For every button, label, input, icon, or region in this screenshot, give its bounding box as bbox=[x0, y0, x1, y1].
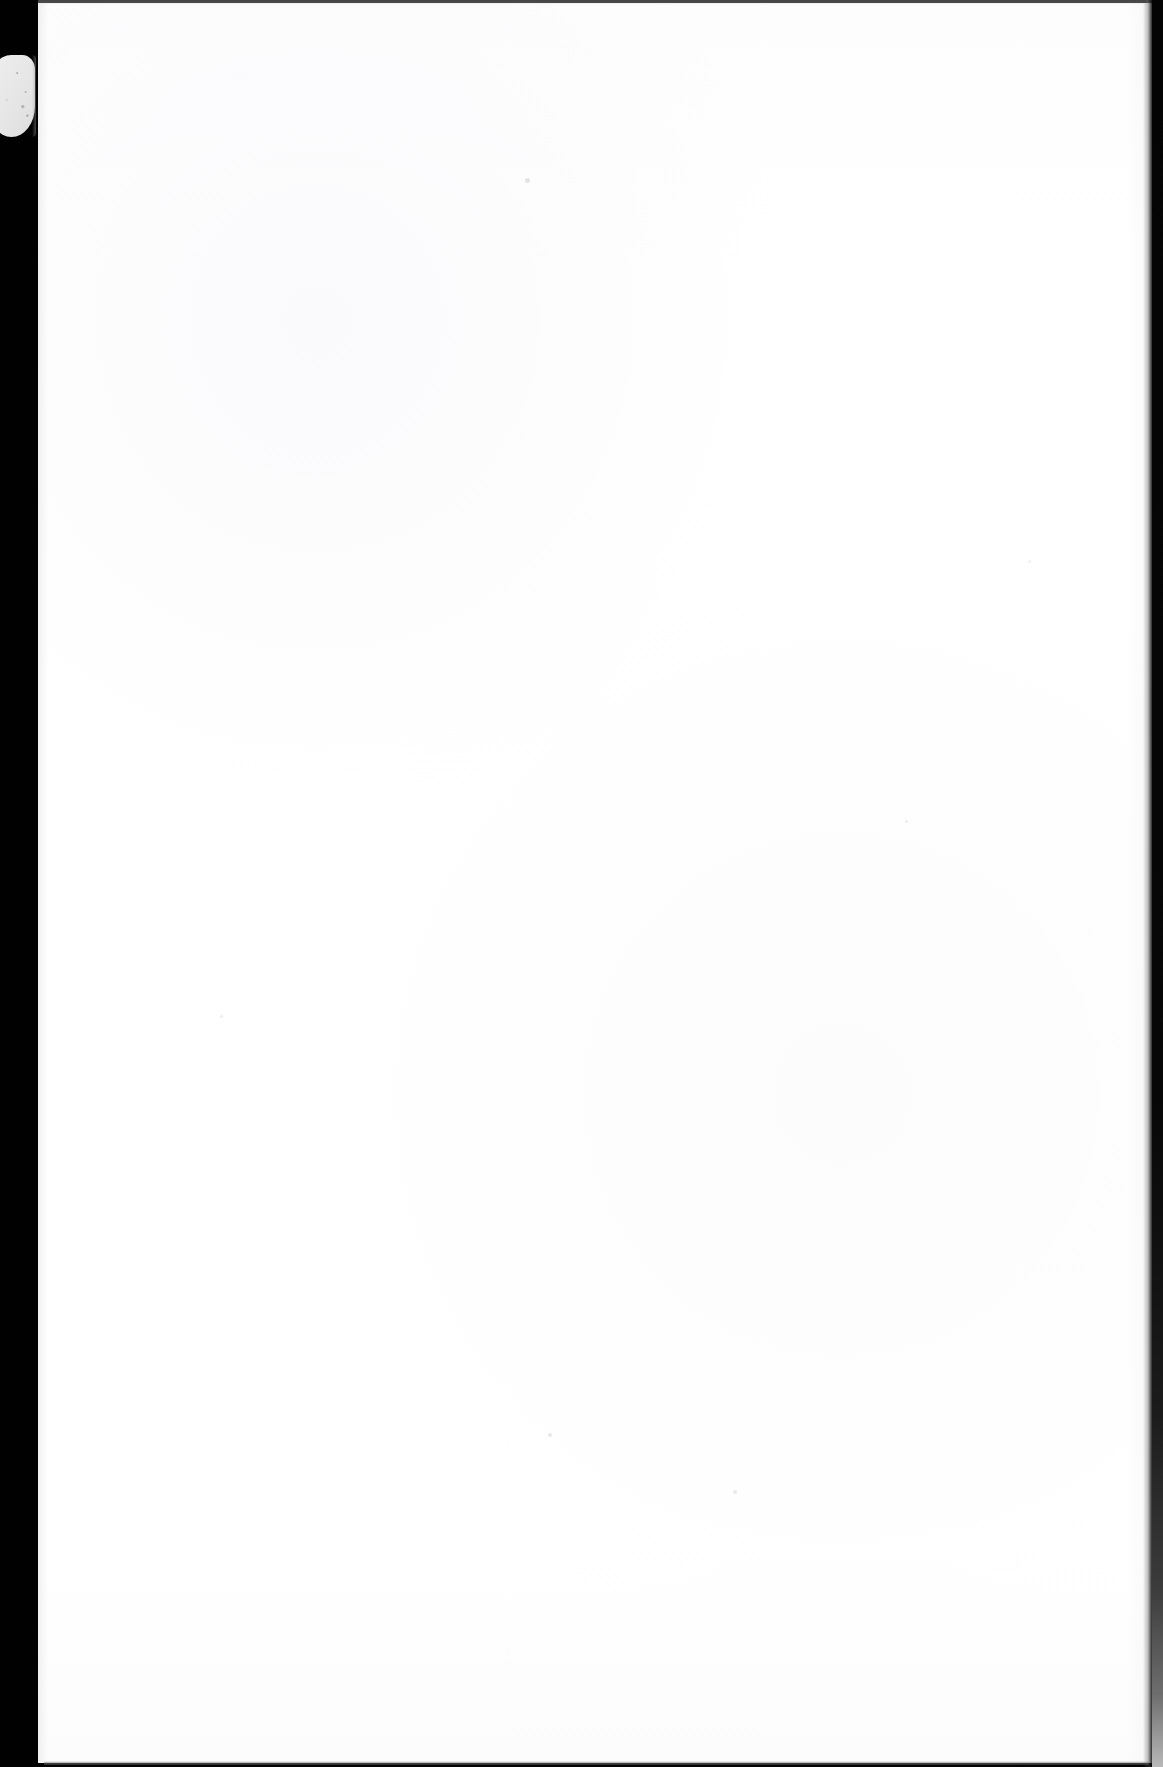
paper-sheet bbox=[38, 3, 1153, 1763]
paper-grain-texture bbox=[38, 3, 1153, 1763]
paper-left-edge-shadow bbox=[38, 3, 48, 1763]
scanned-page-canvas: Blank scanned page — no visible text or … bbox=[0, 0, 1163, 1767]
paper-right-edge-shadow bbox=[1127, 3, 1153, 1763]
thumb-artifact bbox=[0, 55, 35, 137]
scanner-void-left bbox=[0, 0, 38, 1767]
scanner-void-right bbox=[1152, 0, 1163, 1767]
